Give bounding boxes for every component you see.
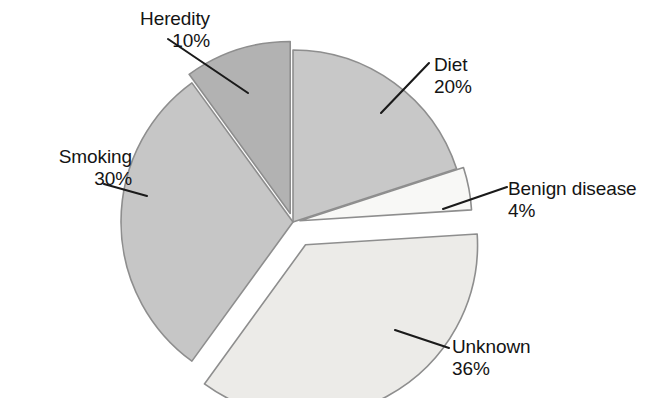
slice-label-diet-name: Diet [434, 54, 574, 76]
pie-slices-group [121, 41, 478, 398]
slice-label-unknown: Unknown 36% [452, 336, 602, 381]
slice-label-benign-disease: Benign disease 4% [508, 178, 648, 223]
slice-label-diet: Diet 20% [434, 54, 574, 99]
slice-label-benign-disease-name: Benign disease [508, 178, 648, 200]
slice-label-unknown-percent: 36% [452, 358, 602, 380]
slice-label-diet-percent: 20% [434, 76, 574, 98]
slice-label-unknown-name: Unknown [452, 336, 602, 358]
slice-label-smoking: Smoking 30% [2, 146, 132, 191]
slice-label-heredity: Heredity 10% [60, 8, 210, 53]
slice-label-heredity-percent: 10% [60, 30, 210, 52]
slice-label-heredity-name: Heredity [60, 8, 210, 30]
slice-label-smoking-name: Smoking [2, 146, 132, 168]
slice-label-smoking-percent: 30% [2, 168, 132, 190]
pie-chart-figure: Heredity 10% Diet 20% Benign disease 4% … [0, 0, 648, 398]
slice-label-benign-disease-percent: 4% [508, 200, 648, 222]
